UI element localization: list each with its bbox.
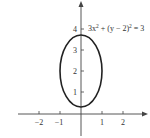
x-tick-label: −2 <box>35 118 44 127</box>
equation-label: 3x2 + (y − 2)2 = 3 <box>88 23 144 33</box>
y-tick-label: 3 <box>73 46 77 55</box>
y-tick-label: 4 <box>73 25 77 34</box>
x-axis-arrow-icon <box>142 112 148 117</box>
x-tick-label: 1 <box>100 118 104 127</box>
x-ticks: −2 −1 1 2 <box>35 111 125 127</box>
x-tick-label: 2 <box>121 118 125 127</box>
y-tick-label: 1 <box>73 88 77 97</box>
ellipse-plot: −2 −1 1 2 1 2 3 4 3x2 + (y − 2)2 = 3 <box>0 0 150 138</box>
y-axis-arrow-icon <box>79 1 84 7</box>
x-tick-label: −1 <box>55 118 64 127</box>
y-tick-label: 2 <box>73 67 77 76</box>
